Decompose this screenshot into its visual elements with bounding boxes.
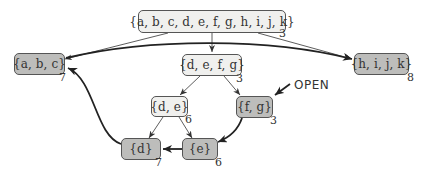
edge-d-abc [68,68,121,144]
node-value: 7 [59,71,66,84]
node-label: {d, e} [150,100,188,114]
node-value: 8 [407,71,414,84]
node-label: {d} [129,142,152,156]
node-e: {e} [182,138,218,160]
node-label: {h, i, j, k} [351,57,413,71]
edge-fg-e [218,118,242,142]
node-label: {d, e, f, g} [179,58,245,72]
node-label: {a, b, c} [13,57,66,71]
node-fg: {f, g} [236,96,273,118]
node-value: 6 [215,156,222,169]
node-value: 7 [155,156,162,169]
node-value: 3 [270,114,277,127]
node-value: 3 [279,27,286,40]
edge-defg-de [180,76,200,95]
node-de: {d, e} [151,96,188,117]
node-hijk: {h, i, j, k} [354,53,409,75]
node-value: 6 [185,113,192,126]
edge-de-d [149,117,163,138]
node-label: {f, g} [237,100,272,114]
node-root: {a, b, c, d, e, f, g, h, i, j, k} [138,10,286,33]
open-pointer-arrow [275,84,290,95]
node-label: {a, b, c, d, e, f, g, h, i, j, k} [129,15,294,29]
open-label: OPEN [294,78,329,92]
node-value: 3 [236,72,243,85]
node-defg: {d, e, f, g} [182,54,242,76]
node-abc: {a, b, c} [14,53,65,75]
node-label: {e} [189,142,212,156]
